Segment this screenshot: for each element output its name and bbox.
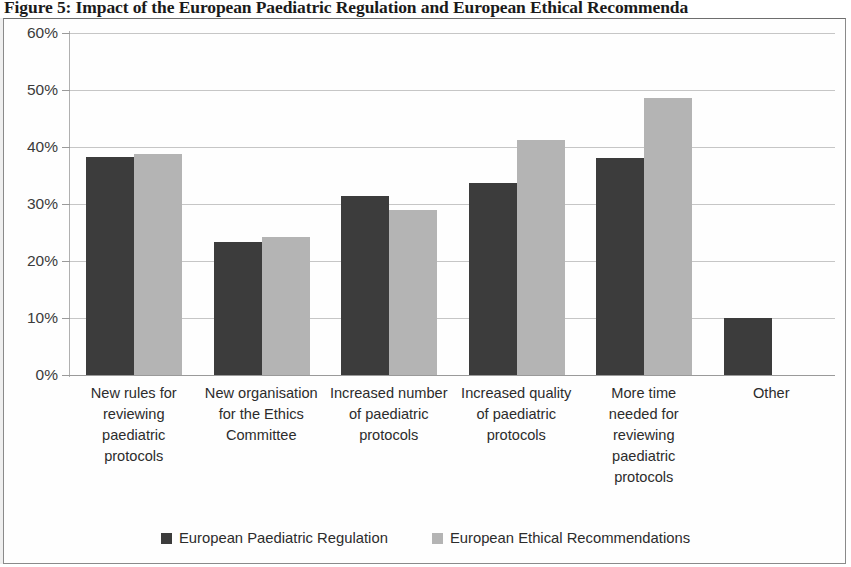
y-axis-tick: [62, 261, 70, 262]
legend-swatch-icon: [432, 533, 443, 544]
x-axis-category-line: of paediatric: [325, 404, 453, 425]
bar-group: [453, 33, 581, 375]
bar-group: [325, 33, 453, 375]
y-axis-tick: [62, 33, 70, 34]
y-axis-label: 30%: [2, 196, 58, 211]
legend-label: European Ethical Recommendations: [450, 530, 690, 546]
x-axis-category-line: for the Ethics: [198, 404, 326, 425]
y-axis-labels: 0%10%20%30%40%50%60%: [0, 0, 58, 567]
x-axis-category-line: paediatric: [580, 446, 708, 467]
y-axis-label: 50%: [2, 82, 58, 97]
bar-group: [198, 33, 326, 375]
bar: [262, 237, 310, 375]
legend-entry: European Paediatric Regulation: [161, 530, 388, 546]
x-axis-category-line: Increased quality: [453, 383, 581, 404]
x-axis-category-line: protocols: [70, 446, 198, 467]
x-axis-category-line: paediatric: [70, 425, 198, 446]
bar: [86, 157, 134, 375]
bar-group: [70, 33, 198, 375]
x-axis-category-line: Increased number: [325, 383, 453, 404]
x-axis-category-label: Increased qualityof paediatricprotocols: [453, 383, 581, 446]
y-axis-label: 0%: [2, 367, 58, 382]
y-axis-tick: [62, 204, 70, 205]
bar: [644, 98, 692, 375]
bar-group: [580, 33, 708, 375]
x-axis-category-line: of paediatric: [453, 404, 581, 425]
x-axis-category-line: New organisation: [198, 383, 326, 404]
bar: [214, 242, 262, 375]
bar-group: [708, 33, 836, 375]
y-axis-label: 60%: [2, 25, 58, 40]
figure-page: Figure 5: Impact of the European Paediat…: [0, 0, 851, 567]
x-axis-category-line: reviewing: [580, 425, 708, 446]
x-axis-category-line: reviewing: [70, 404, 198, 425]
x-axis-category-line: New rules for: [70, 383, 198, 404]
x-axis-category-line: protocols: [325, 425, 453, 446]
legend-label: European Paediatric Regulation: [179, 530, 388, 546]
gridline: [70, 375, 835, 376]
bar: [724, 318, 772, 375]
x-axis-category-line: protocols: [453, 425, 581, 446]
x-axis-category-label: Increased numberof paediatricprotocols: [325, 383, 453, 446]
x-axis-category-label: New rules forreviewingpaediatricprotocol…: [70, 383, 198, 467]
bar: [341, 196, 389, 375]
x-axis-labels: New rules forreviewingpaediatricprotocol…: [70, 383, 835, 503]
x-axis-category-label: New organisationfor the EthicsCommittee: [198, 383, 326, 446]
chart-legend: European Paediatric RegulationEuropean E…: [0, 530, 851, 546]
x-axis-category-line: Committee: [198, 425, 326, 446]
y-axis-tick: [62, 90, 70, 91]
bar: [517, 140, 565, 375]
x-axis-category-label: More timeneeded forreviewingpaediatricpr…: [580, 383, 708, 488]
bar: [596, 158, 644, 375]
x-axis-category-line: More time: [580, 383, 708, 404]
bar: [469, 183, 517, 375]
bar: [134, 154, 182, 375]
y-axis-tick: [62, 147, 70, 148]
x-axis-category-line: Other: [708, 383, 836, 404]
y-axis-tick: [62, 375, 70, 376]
legend-entry: European Ethical Recommendations: [432, 530, 690, 546]
y-axis-tick: [62, 318, 70, 319]
y-axis-label: 40%: [2, 139, 58, 154]
y-axis-label: 20%: [2, 253, 58, 268]
x-axis-category-line: needed for: [580, 404, 708, 425]
bar-chart: 0%10%20%30%40%50%60% New rules forreview…: [0, 0, 851, 567]
x-axis-category-label: Other: [708, 383, 836, 404]
legend-swatch-icon: [161, 533, 172, 544]
x-axis-category-line: protocols: [580, 467, 708, 488]
plot-area: [70, 33, 835, 375]
y-axis-label: 10%: [2, 310, 58, 325]
bar: [389, 210, 437, 375]
